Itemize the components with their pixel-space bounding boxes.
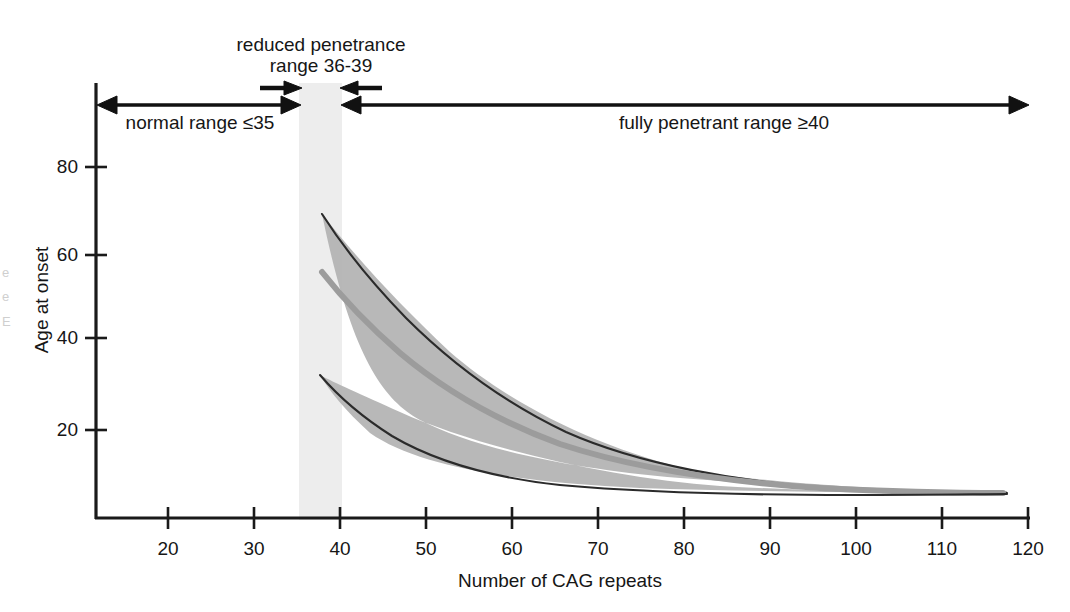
y-axis-title: Age at onset	[31, 247, 53, 354]
reduced-penetrance-band	[299, 83, 342, 520]
normal-range-label: normal range ≤35	[126, 112, 275, 134]
x-tick-label-50: 50	[415, 538, 436, 560]
y-tick-label-80: 80	[32, 156, 78, 178]
chart-plot-area	[0, 0, 1070, 612]
x-tick-label-70: 70	[587, 538, 608, 560]
x-tick-label-60: 60	[501, 538, 522, 560]
x-tick-label-40: 40	[329, 538, 350, 560]
x-tick-label-120: 120	[1012, 538, 1044, 560]
x-tick-label-100: 100	[840, 538, 872, 560]
x-tick-label-90: 90	[759, 538, 780, 560]
x-tick-label-80: 80	[673, 538, 694, 560]
reduced-penetrance-label-line1: reduced penetrance	[236, 34, 405, 55]
figure-container: eeE	[0, 0, 1070, 612]
y-tick-label-20: 20	[32, 419, 78, 441]
x-axis-title: Number of CAG repeats	[458, 570, 662, 592]
x-tick-label-30: 30	[243, 538, 264, 560]
annotation-arrows	[97, 81, 1029, 114]
x-tick-label-20: 20	[157, 538, 178, 560]
reduced-penetrance-label-line2: range 36-39	[270, 55, 372, 76]
x-tick-label-110: 110	[927, 538, 957, 560]
fully-penetrant-range-label: fully penetrant range ≥40	[619, 112, 829, 134]
